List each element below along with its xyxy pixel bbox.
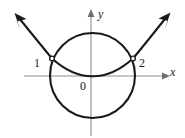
intersection-point-1-label: 1 bbox=[34, 57, 40, 69]
intersection-point-2-label: 2 bbox=[139, 57, 145, 69]
math-figure: x y 0 1 2 bbox=[0, 0, 185, 138]
origin-label: 0 bbox=[80, 80, 86, 92]
x-axis-label: x bbox=[170, 66, 175, 78]
x-axis-arrowhead bbox=[162, 73, 170, 80]
y-axis-arrowhead bbox=[88, 9, 95, 17]
parabola-right-arrowhead bbox=[159, 13, 171, 31]
intersection-point-2-marker bbox=[131, 56, 136, 61]
intersection-point-1-marker bbox=[50, 56, 55, 61]
parabola-left-arrowhead bbox=[15, 13, 27, 31]
figure-canvas bbox=[0, 0, 185, 138]
y-axis-label: y bbox=[98, 8, 103, 20]
